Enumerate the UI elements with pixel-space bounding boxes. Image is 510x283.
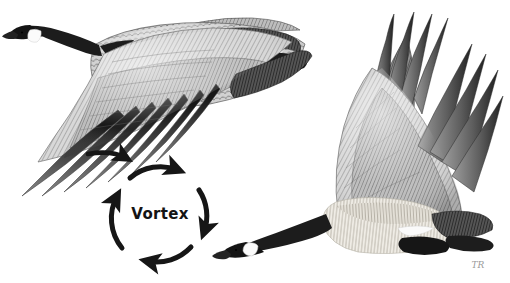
vortex-label: Vortex <box>131 205 188 223</box>
lead-goose-eye <box>21 31 23 33</box>
illustration-canvas: Vortex <box>0 0 510 283</box>
artist-signature: TR <box>472 260 485 270</box>
trailing-goose-eye <box>235 249 237 251</box>
geese-vortex-illustration: Vortex <box>0 0 510 283</box>
